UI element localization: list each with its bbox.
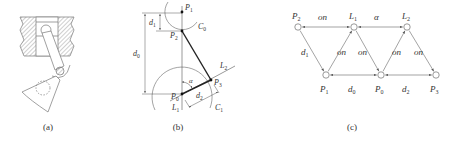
label-c0: C0 — [198, 22, 206, 32]
edge-label: on — [392, 47, 402, 57]
edge-label: on — [414, 47, 424, 57]
label-p3: P3 — [213, 78, 222, 88]
node-label-l1: L1 — [348, 11, 357, 22]
point-p0 — [181, 93, 184, 96]
label-p2: P2 — [169, 31, 178, 41]
point-p3 — [210, 79, 213, 82]
node-label-l2: L2 — [401, 11, 410, 22]
node-label-p0: P0 — [374, 84, 384, 95]
label-d1: d1 — [149, 18, 156, 28]
panel-b: P1 P2 P0 P3 C0 C1 L1 L2 d0 d1 d2 α (b) — [133, 2, 235, 132]
label-p0: P0 — [170, 92, 179, 102]
edge-label: on — [318, 12, 328, 22]
caption-c: (c) — [347, 122, 357, 132]
label-p1: P1 — [184, 3, 193, 13]
caption-b: (b) — [173, 122, 184, 132]
label-alpha: α — [189, 77, 193, 85]
panel-c: onαd1onononond0d2P2L1L2P1P0P3 (c) — [291, 11, 439, 132]
panel-a: (a) — [20, 17, 74, 132]
point-p2 — [181, 30, 184, 33]
node-l2 — [404, 24, 410, 30]
edge-label: on — [358, 47, 368, 57]
caption-a: (a) — [43, 122, 53, 132]
dimension-d2 — [189, 92, 218, 107]
figure-canvas: (a) P1 P2 P — [0, 0, 461, 141]
edge-label: d0 — [348, 84, 356, 95]
node-l1 — [351, 24, 357, 30]
point-p1 — [181, 11, 184, 14]
label-l1: L1 — [171, 103, 179, 113]
edge-label: d1 — [301, 47, 309, 58]
label-d2: d2 — [196, 91, 203, 101]
node-p1 — [323, 72, 329, 78]
node-p2 — [295, 24, 301, 30]
label-c1: C1 — [215, 103, 223, 113]
node-label-p1: P1 — [319, 84, 329, 95]
node-label-p3: P3 — [429, 84, 439, 95]
node-p0 — [378, 72, 384, 78]
label-d0: d0 — [133, 49, 140, 59]
node-p3 — [433, 72, 439, 78]
link-p2-p3 — [182, 31, 211, 80]
label-l2: L2 — [219, 61, 227, 71]
node-label-p2: P2 — [291, 11, 301, 22]
piston-mechanism-drawing — [20, 17, 74, 112]
edge-label: on — [337, 47, 347, 57]
edge-label: d2 — [402, 84, 410, 95]
edge-label: α — [374, 12, 379, 22]
